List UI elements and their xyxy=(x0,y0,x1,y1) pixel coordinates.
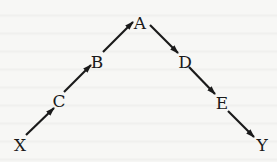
edges-group xyxy=(26,22,254,137)
arrow-d-to-e xyxy=(189,67,215,94)
node-label-b: B xyxy=(91,52,104,72)
arrow-c-to-b xyxy=(64,65,91,92)
arrow-a-to-d xyxy=(150,25,178,53)
diagram-canvas: XCBADEY xyxy=(0,0,277,162)
node-label-x: X xyxy=(14,135,27,155)
path-diagram: XCBADEY xyxy=(0,0,277,162)
node-label-y: Y xyxy=(255,135,268,155)
node-label-c: C xyxy=(52,91,65,111)
node-label-a: A xyxy=(133,13,147,33)
arrow-e-to-y xyxy=(228,111,254,137)
arrow-b-to-a xyxy=(103,22,133,52)
node-label-e: E xyxy=(216,93,228,113)
node-label-d: D xyxy=(178,52,192,72)
arrow-x-to-c xyxy=(26,108,54,135)
nodes-group: XCBADEY xyxy=(14,13,268,155)
